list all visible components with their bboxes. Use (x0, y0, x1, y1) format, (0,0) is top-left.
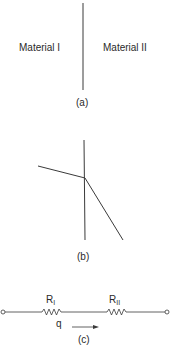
resistor-2-subscript: II (116, 299, 120, 306)
incident-ray (38, 166, 85, 178)
material-1-label: Material I (19, 42, 60, 54)
heat-flow-label: q (56, 318, 62, 330)
resistor-2-label: RII (109, 294, 120, 309)
interface-line (84, 140, 85, 240)
right-terminal (165, 310, 169, 314)
caption-b: (b) (77, 251, 89, 263)
refracted-ray (85, 178, 123, 240)
caption-c: (c) (78, 334, 90, 346)
resistor-1-subscript: I (53, 299, 55, 306)
resistor-1-label: RI (46, 294, 55, 309)
caption-a: (a) (76, 97, 88, 109)
material-2-label: Material II (103, 42, 147, 54)
left-terminal (1, 310, 5, 314)
resistor-1-icon (42, 309, 63, 315)
arrowhead-icon (93, 325, 99, 329)
resistor-2-icon (107, 309, 127, 315)
